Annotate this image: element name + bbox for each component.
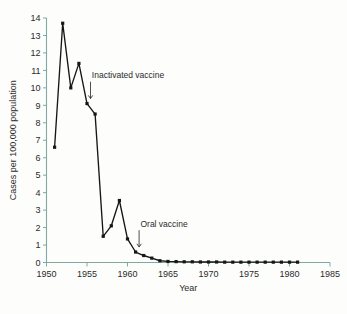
x-axis-title: Year bbox=[179, 283, 197, 293]
data-point bbox=[150, 257, 153, 260]
data-point bbox=[183, 260, 186, 263]
data-point bbox=[231, 261, 234, 264]
y-axis-title: Cases per 100,000 population bbox=[8, 80, 18, 200]
data-point bbox=[280, 261, 283, 264]
data-point bbox=[134, 250, 137, 253]
y-tick-label: 7 bbox=[35, 135, 40, 145]
data-point bbox=[223, 261, 226, 264]
data-point bbox=[53, 146, 56, 149]
data-point bbox=[85, 102, 88, 105]
data-point bbox=[142, 254, 145, 257]
y-tick-label: 1 bbox=[35, 240, 40, 250]
x-tick-label: 1955 bbox=[77, 269, 97, 279]
y-tick-label: 5 bbox=[35, 170, 40, 180]
data-point bbox=[102, 235, 105, 238]
annotation-label: Inactivated vaccine bbox=[92, 70, 165, 80]
data-point bbox=[215, 260, 218, 263]
x-tick-label: 1950 bbox=[36, 269, 56, 279]
data-point bbox=[110, 224, 113, 227]
y-tick-label: 11 bbox=[31, 66, 40, 76]
data-point bbox=[158, 259, 161, 262]
data-point bbox=[69, 86, 72, 89]
x-axis-title-text: Year bbox=[179, 283, 197, 293]
y-tick-label: 13 bbox=[30, 31, 40, 41]
chart-canvas: Cases per 100,000 population Year 012345… bbox=[0, 0, 347, 314]
data-point bbox=[256, 261, 259, 264]
y-tick-label: 10 bbox=[30, 83, 40, 93]
y-tick-label: 4 bbox=[35, 188, 40, 198]
y-tick-label: 3 bbox=[35, 205, 40, 215]
data-point bbox=[118, 199, 121, 202]
axis-spine bbox=[47, 18, 331, 263]
data-point bbox=[166, 260, 169, 263]
data-point bbox=[77, 62, 80, 65]
axis-lines bbox=[47, 18, 331, 263]
data-point bbox=[247, 261, 250, 264]
data-point bbox=[199, 260, 202, 263]
polio-incidence-chart: Cases per 100,000 population Year 012345… bbox=[0, 0, 347, 314]
data-point bbox=[296, 261, 299, 264]
y-axis-ticks: 01234567891011121314 bbox=[30, 13, 46, 268]
y-tick-label: 6 bbox=[35, 153, 40, 163]
data-point bbox=[94, 112, 97, 115]
data-point bbox=[175, 260, 178, 263]
data-point bbox=[264, 261, 267, 264]
x-tick-label: 1975 bbox=[239, 269, 259, 279]
chart-annotations: Inactivated vaccineOral vaccine bbox=[88, 70, 188, 247]
x-tick-label: 1980 bbox=[279, 269, 299, 279]
x-axis-ticks: 19501955196019651970197519801985 bbox=[36, 263, 340, 280]
data-point bbox=[272, 261, 275, 264]
data-point bbox=[207, 260, 210, 263]
y-axis-title-text: Cases per 100,000 population bbox=[8, 80, 18, 200]
x-tick-label: 1985 bbox=[320, 269, 340, 279]
y-tick-label: 2 bbox=[35, 223, 40, 233]
y-tick-label: 9 bbox=[35, 101, 40, 111]
y-tick-label: 0 bbox=[35, 258, 40, 268]
data-point bbox=[126, 237, 129, 240]
data-point bbox=[61, 22, 64, 25]
annotation-label: Oral vaccine bbox=[140, 219, 188, 229]
y-tick-label: 14 bbox=[30, 13, 40, 23]
y-tick-label: 8 bbox=[35, 118, 40, 128]
x-tick-label: 1970 bbox=[198, 269, 218, 279]
x-tick-label: 1965 bbox=[158, 269, 178, 279]
y-tick-label: 12 bbox=[30, 48, 40, 58]
x-tick-label: 1960 bbox=[117, 269, 137, 279]
data-point bbox=[239, 261, 242, 264]
data-point bbox=[191, 260, 194, 263]
data-point bbox=[288, 261, 291, 264]
